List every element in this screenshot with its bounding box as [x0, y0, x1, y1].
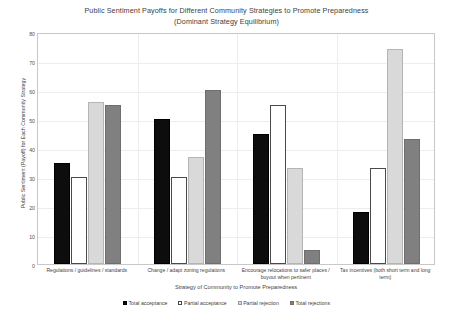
y-axis-tick-label: 70: [29, 60, 35, 66]
legend-swatch-icon: [290, 301, 294, 305]
x-axis-tick-label-line: Tax incentives (both short term and long: [336, 267, 436, 274]
bar-group: [138, 34, 238, 264]
x-axis-title: Strategy of Community to Promote Prepare…: [37, 284, 435, 290]
x-axis-tick-label-line: buyout when pertinent: [236, 274, 336, 281]
bar[interactable]: [370, 168, 386, 264]
bar[interactable]: [353, 212, 369, 264]
bar-group: [337, 34, 437, 264]
y-axis-tick-label: 10: [29, 234, 35, 240]
y-axis-tick-label: 20: [29, 205, 35, 211]
bar[interactable]: [304, 250, 320, 265]
x-axis-tick-label-line: Regulations / guidelines / standards: [37, 267, 137, 274]
bar[interactable]: [154, 119, 170, 264]
legend-swatch-icon: [238, 301, 242, 305]
legend-label: Total rejections: [295, 300, 330, 306]
legend-item[interactable]: Total rejections: [290, 300, 330, 306]
bar[interactable]: [387, 49, 403, 264]
y-axis-tick-label: 40: [29, 147, 35, 153]
legend-label: Partial rejection: [243, 300, 279, 306]
legend-swatch-icon: [123, 301, 127, 305]
x-axis-tick-label: Change / adapt zoning regulations: [137, 267, 237, 274]
bar[interactable]: [105, 105, 121, 265]
bar[interactable]: [205, 90, 221, 264]
bar[interactable]: [188, 157, 204, 264]
chart-title: Public Sentiment Payoffs for Different C…: [0, 5, 453, 27]
y-axis-tick-label: 0: [32, 263, 35, 269]
bar-group: [237, 34, 337, 264]
x-axis-tick-label-line: Encourage relocations to safer places /: [236, 267, 336, 274]
bar[interactable]: [171, 177, 187, 264]
x-axis-tick-label: Regulations / guidelines / standards: [37, 267, 137, 274]
legend-label: Partial acceptance: [184, 300, 227, 306]
x-axis-tick-label-line: term): [336, 274, 436, 281]
x-axis-tick-label-line: Change / adapt zoning regulations: [137, 267, 237, 274]
bar[interactable]: [71, 177, 87, 264]
chart-title-line1: Public Sentiment Payoffs for Different C…: [84, 6, 368, 15]
bar[interactable]: [253, 134, 269, 265]
x-axis-tick-label: Encourage relocations to safer places /b…: [236, 267, 336, 280]
y-axis-tick-label: 60: [29, 89, 35, 95]
y-axis-tick-label: 50: [29, 118, 35, 124]
y-axis-tick-label: 80: [29, 31, 35, 37]
bar[interactable]: [270, 105, 286, 265]
chart-subtitle: (Dominant Strategy Equilibrium): [0, 16, 453, 27]
bar[interactable]: [88, 102, 104, 264]
chart-legend: Total acceptancePartial acceptancePartia…: [0, 300, 453, 306]
bar[interactable]: [287, 168, 303, 264]
x-axis-tick-label: Tax incentives (both short term and long…: [336, 267, 436, 280]
legend-swatch-icon: [178, 301, 182, 305]
bar[interactable]: [54, 163, 70, 265]
bar-chart: Public Sentiment Payoffs for Different C…: [0, 0, 453, 321]
legend-item[interactable]: Total acceptance: [123, 300, 167, 306]
legend-label: Total acceptance: [129, 300, 168, 306]
bar-group: [38, 34, 138, 264]
plot-area: 01020304050607080: [37, 33, 435, 265]
bar[interactable]: [404, 139, 420, 264]
y-axis-tick-label: 30: [29, 176, 35, 182]
legend-item[interactable]: Partial rejection: [238, 300, 279, 306]
legend-item[interactable]: Partial acceptance: [178, 300, 226, 306]
y-axis-title: Public Sentiment (Payoff) for Each Commu…: [20, 43, 26, 243]
